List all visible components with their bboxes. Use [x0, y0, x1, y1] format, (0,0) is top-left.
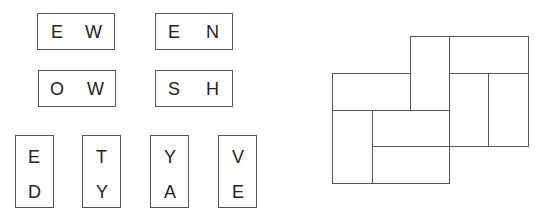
grid-slot-1[interactable]	[411, 37, 450, 111]
grid-slot-5[interactable]	[489, 74, 529, 147]
grid-slot-3[interactable]	[333, 74, 411, 111]
grid-slot-2[interactable]	[450, 37, 529, 74]
target-grid	[0, 0, 551, 214]
grid-slot-7[interactable]	[373, 111, 450, 147]
grid-slot-4[interactable]	[450, 74, 489, 147]
grid-slot-8[interactable]	[373, 147, 450, 184]
grid-slot-6[interactable]	[333, 111, 373, 184]
